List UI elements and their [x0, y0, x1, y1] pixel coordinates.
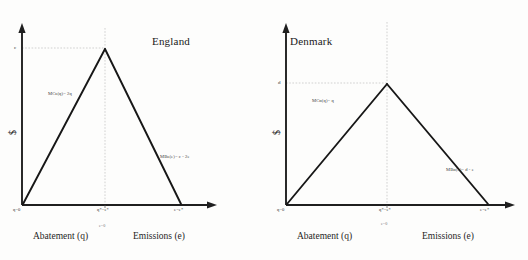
denmark-emissions-caption: Emissions (e) — [422, 232, 474, 242]
england-right-tick-label: e=e* — [174, 208, 183, 213]
denmark-panel-title: Denmark — [290, 36, 332, 47]
england-center-tick-sublabel: e=0 — [99, 224, 105, 228]
england-y-axis-label: $ — [8, 130, 18, 135]
figure-container: England $ c MCᴇ(q)= 2q MBᴇ(e)= c - 2e q=… — [0, 0, 528, 260]
england-panel-title: England — [152, 36, 190, 47]
england-center-tick-label: q*=e* — [97, 208, 109, 213]
denmark-right-tick-label: e=e* — [480, 208, 489, 213]
england-mc-curve-line — [23, 49, 105, 204]
england-emissions-caption: Emissions (e) — [133, 232, 185, 242]
england-x-axis-arrowhead — [207, 201, 217, 208]
denmark-center-tick-sublabel: e=0 — [381, 222, 387, 226]
england-mc-curve-equation: MCᴇ(q)= 2q — [48, 92, 72, 97]
denmark-y-axis-label: $ — [272, 130, 282, 135]
denmark-mb-curve-equation: MBᴅ(e)= d - e — [446, 168, 474, 173]
england-abatement-caption: Abatement (q) — [33, 232, 88, 242]
denmark-center-tick-label: q*=e* — [379, 208, 391, 213]
denmark-x-axis-arrowhead — [505, 201, 515, 208]
chart-panel-england: England $ c MCᴇ(q)= 2q MBᴇ(e)= c - 2e q=… — [0, 0, 264, 260]
denmark-origin-tick-label: q=0 — [277, 208, 285, 213]
england-mb-curve-equation: MBᴇ(e)= c - 2e — [160, 155, 190, 160]
denmark-mc-curve-line — [287, 84, 387, 204]
denmark-abatement-caption: Abatement (q) — [297, 232, 352, 242]
denmark-y-intercept-label: d — [278, 80, 281, 85]
denmark-y-axis-arrowhead — [282, 23, 289, 33]
england-y-axis-arrowhead — [18, 23, 25, 33]
england-origin-tick-label: q=0 — [13, 208, 21, 213]
england-plot-svg — [0, 0, 264, 260]
england-y-intercept-label: c — [14, 45, 16, 50]
england-mb-curve-line — [105, 49, 181, 204]
denmark-mb-curve-line — [387, 84, 488, 204]
denmark-mc-curve-equation: MCᴅ(q)= q — [312, 99, 334, 104]
chart-panel-denmark: Denmark $ d MCᴅ(q)= q MBᴅ(e)= d - e q=0 … — [264, 0, 528, 260]
